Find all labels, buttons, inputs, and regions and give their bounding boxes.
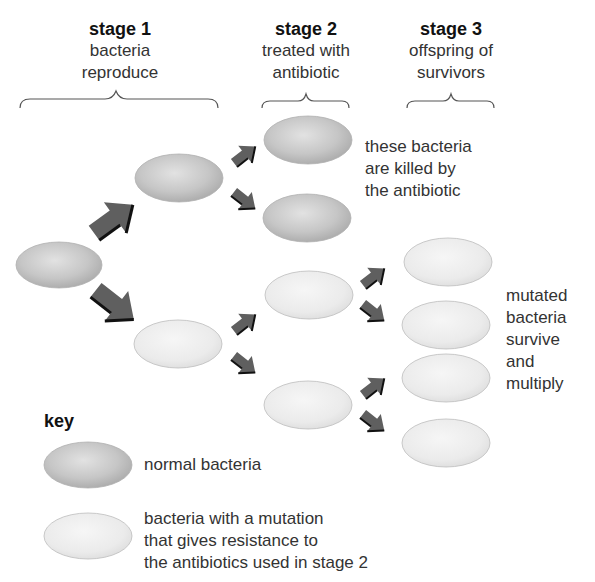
arrow-icon — [356, 295, 391, 329]
stage-1-header: stage 1 bacteria reproduce — [40, 18, 200, 84]
stage-3-brace — [407, 94, 494, 108]
survive-line-4: and — [506, 351, 567, 373]
bacterium-mutated-stage3 — [402, 301, 490, 349]
arrow-icon — [356, 405, 391, 439]
arrow-icon — [227, 347, 262, 381]
survive-annotation: mutated bacteria survive and multiply — [506, 285, 567, 395]
stage-1-desc-line2: reproduce — [40, 62, 200, 84]
stage-3-desc-line1: offspring of — [391, 40, 511, 62]
bacterium-normal-stage2 — [264, 116, 352, 164]
key-normal-bacteria-swatch — [44, 442, 132, 488]
survive-line-5: multiply — [506, 373, 567, 395]
bacterium-mutated-stage2 — [265, 271, 353, 319]
arrow-icon — [227, 183, 262, 217]
stage-2-desc-line2: antibiotic — [246, 62, 366, 84]
stage-3-title: stage 3 — [391, 18, 511, 40]
stage-1-desc-line1: bacteria — [40, 40, 200, 62]
stage-3-desc-line2: survivors — [391, 62, 511, 84]
arrow-icon — [356, 260, 391, 294]
killed-annotation: these bacteria are killed by the antibio… — [365, 136, 472, 202]
bacterium-mutated-stage3 — [402, 419, 490, 467]
bacterium-mutated-stage2 — [264, 381, 352, 429]
bacterium-mutated-stage3 — [402, 354, 490, 402]
stage-1-brace — [20, 91, 218, 108]
killed-line-2: are killed by — [365, 158, 472, 180]
stage-1-title: stage 1 — [40, 18, 200, 40]
killed-line-1: these bacteria — [365, 136, 472, 158]
stage-2-title: stage 2 — [246, 18, 366, 40]
key-normal-label: normal bacteria — [144, 454, 261, 476]
stage-2-brace — [262, 94, 349, 108]
key-title: key — [44, 410, 74, 432]
key-mutated-line-2: that gives resistance to — [144, 530, 368, 552]
survive-line-2: bacteria — [506, 307, 567, 329]
key-mutated-line-1: bacteria with a mutation — [144, 508, 368, 530]
survive-line-1: mutated — [506, 285, 567, 307]
stage-2-desc-line1: treated with — [246, 40, 366, 62]
arrow-icon — [83, 189, 144, 248]
arrow-icon — [227, 138, 262, 172]
bacterium-mutated-stage1-child — [134, 320, 222, 368]
stage-2-header: stage 2 treated with antibiotic — [246, 18, 366, 84]
bacterium-normal-stage1-parent — [16, 242, 102, 288]
arrow-icon — [356, 370, 391, 404]
bacterium-normal-stage1-child — [135, 154, 223, 202]
arrow-icon — [227, 306, 262, 340]
killed-line-3: the antibiotic — [365, 180, 472, 202]
bacterium-normal-stage2 — [263, 194, 351, 242]
key-mutated-label: bacteria with a mutation that gives resi… — [144, 508, 368, 574]
bacterium-mutated-stage3 — [404, 238, 492, 286]
key-mutated-line-3: the antibiotics used in stage 2 — [144, 552, 368, 574]
key-mutated-bacteria-swatch — [44, 513, 132, 559]
stage-3-header: stage 3 offspring of survivors — [391, 18, 511, 84]
survive-line-3: survive — [506, 329, 567, 351]
arrow-icon — [84, 275, 145, 334]
